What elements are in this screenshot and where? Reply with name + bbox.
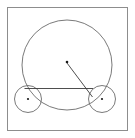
radius-segment — [67, 63, 93, 97]
geometry-diagram-canvas — [0, 0, 135, 138]
large-circle-center-point — [66, 61, 69, 64]
right-small-circle-center-point — [101, 98, 103, 100]
geometry-figure-container — [0, 0, 135, 138]
left-small-circle-center-point — [27, 98, 29, 100]
large-circle — [22, 20, 112, 110]
